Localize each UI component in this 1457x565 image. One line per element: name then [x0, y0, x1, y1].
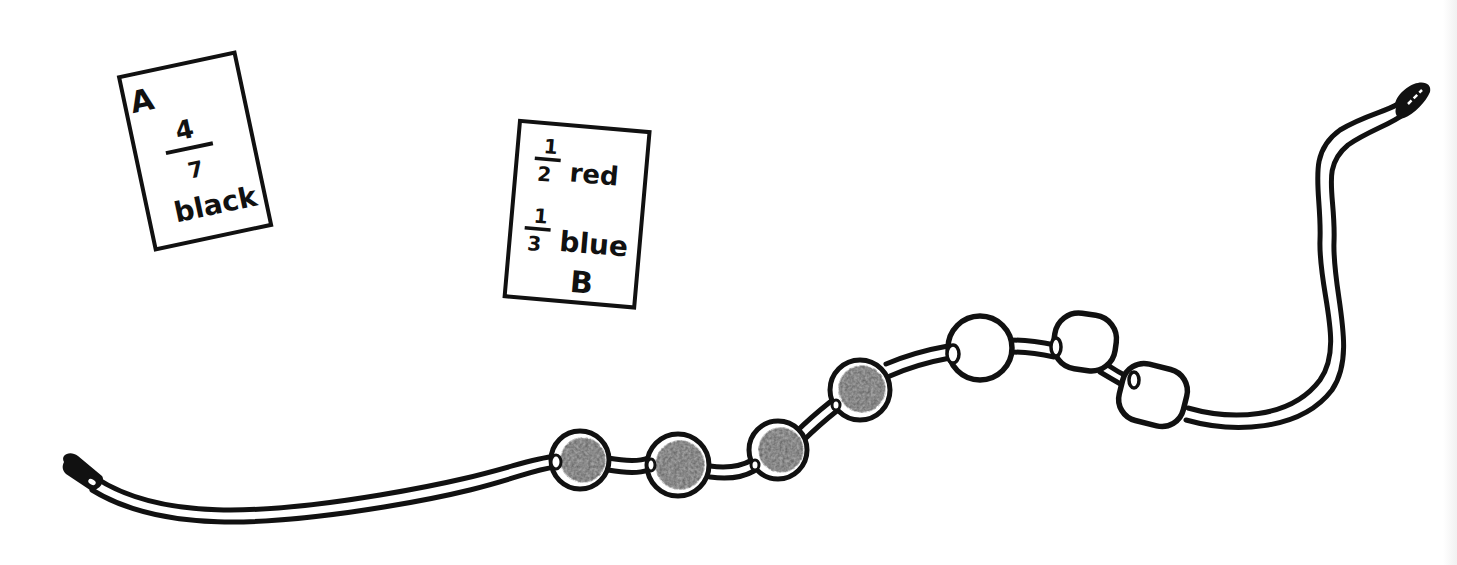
- card-b: 1 2 red 1 3 blue B: [505, 121, 650, 308]
- cord-seg-2-3-lower: [710, 471, 754, 478]
- card-a: A 4 7 black: [119, 53, 271, 250]
- right-aglet: [1395, 82, 1430, 118]
- card-b-row1-fraction-bar: [535, 158, 561, 160]
- bead-1-shaded: [551, 431, 609, 489]
- card-b-row2-numerator: 1: [533, 203, 549, 228]
- bead-string-illustration: A 4 7 black 1 2 red 1 3 blue B: [0, 0, 1457, 565]
- card-b-row2-denominator: 3: [526, 231, 542, 256]
- card-b-row1-numerator: 1: [543, 134, 559, 159]
- card-b-row1-denominator: 2: [536, 162, 552, 187]
- cord-seg-1-2-lower: [608, 470, 648, 473]
- cord-seg-1-2-upper: [608, 458, 648, 461]
- bead-6-plain: [1050, 310, 1119, 374]
- card-b-row1-color-word: red: [568, 157, 620, 191]
- cord-seg-5-6-upper: [1010, 340, 1055, 345]
- left-aglet: [63, 453, 103, 490]
- bead-4-shaded: [830, 360, 890, 420]
- bead-5-plain: [947, 316, 1012, 380]
- bead-3-shaded: [749, 421, 807, 479]
- card-b-row2-color-word: blue: [558, 225, 629, 264]
- bead-2-shaded: [647, 434, 709, 496]
- cord-seg-2-3-upper: [710, 460, 752, 467]
- cord-right-outer: [1188, 104, 1398, 415]
- cord-seg-5-6-lower: [1010, 352, 1054, 357]
- card-b-row2-fraction-bar: [525, 228, 551, 230]
- cord-seg-3-4-lower: [804, 410, 838, 440]
- bead-7-plain: [1114, 359, 1192, 431]
- cord-right-inner: [1186, 114, 1404, 427]
- cord-seg-3-4-upper: [796, 402, 830, 432]
- card-b-label: B: [569, 264, 595, 301]
